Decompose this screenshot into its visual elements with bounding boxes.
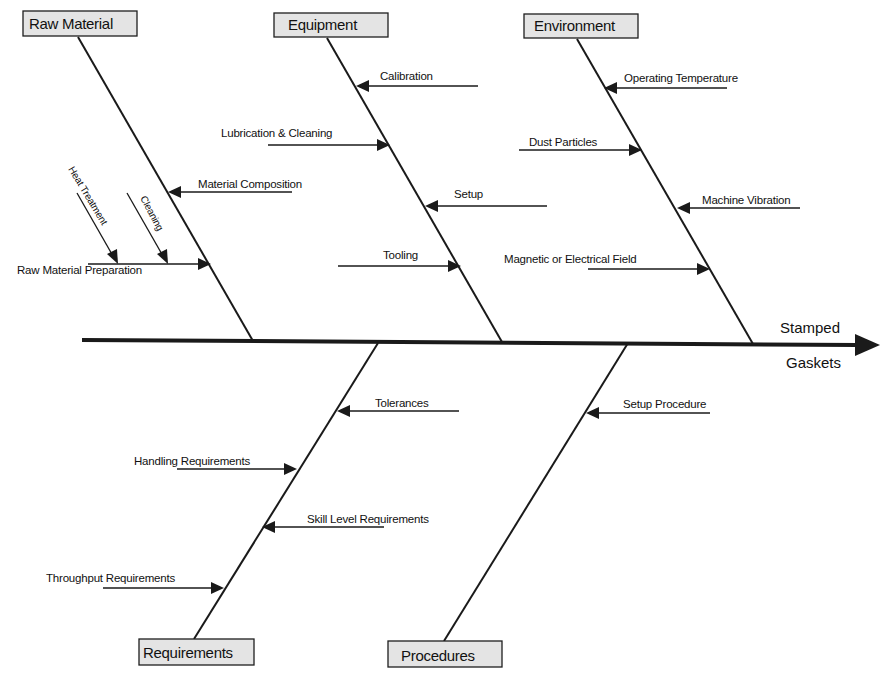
arrowhead-right-icon — [377, 139, 390, 151]
sub-cause-label: Cleaning — [138, 194, 165, 233]
arrowhead-down-icon — [107, 249, 118, 264]
arrowhead-left-icon — [262, 521, 275, 533]
cause-lubrication-cleaning: Lubrication & Cleaning — [221, 127, 390, 151]
arrowhead-right-icon — [448, 260, 461, 272]
cause-label: Tooling — [383, 249, 418, 261]
cause-raw-material-preparation: Raw Material Preparation Heat Treatment … — [17, 164, 211, 276]
cause-magnetic-electrical-field: Magnetic or Electrical Field — [504, 253, 710, 275]
cause-label: Tolerances — [375, 397, 429, 409]
arrowhead-right-icon — [198, 258, 211, 270]
bone-environment — [577, 39, 753, 344]
cause-label: Skill Level Requirements — [307, 513, 429, 525]
category-label-equipment: Equipment — [288, 16, 358, 33]
effect-label-line2: Gaskets — [786, 354, 841, 371]
cause-label: Setup — [454, 188, 483, 200]
category-procedures: Procedures Setup Procedure — [388, 343, 710, 667]
sub-cause-heat-treatment: Heat Treatment — [66, 164, 118, 264]
category-label-raw-material: Raw Material — [29, 15, 113, 32]
category-label-requirements: Requirements — [143, 644, 233, 661]
fishbone-diagram: Stamped Gaskets Raw Material Material Co… — [0, 0, 894, 687]
cause-tolerances: Tolerances — [337, 397, 459, 417]
cause-handling-requirements: Handling Requirements — [134, 455, 297, 475]
cause-label: Calibration — [380, 70, 433, 82]
bone-requirements — [194, 343, 378, 639]
cause-label: Dust Particles — [529, 136, 598, 148]
bone-procedures — [444, 343, 628, 641]
spine-line — [82, 340, 858, 345]
spine-arrowhead-icon — [855, 334, 880, 356]
cause-label: Operating Temperature — [624, 72, 738, 84]
cause-skill-level-requirements: Skill Level Requirements — [262, 513, 429, 533]
arrowhead-down-icon — [157, 249, 168, 264]
cause-material-composition: Material Composition — [168, 178, 302, 198]
category-environment: Environment Operating Temperature Dust P… — [504, 14, 800, 344]
category-requirements: Requirements Tolerances Handling Require… — [46, 343, 459, 665]
cause-machine-vibration: Machine Vibration — [677, 194, 800, 214]
category-label-environment: Environment — [534, 17, 616, 34]
cause-calibration: Calibration — [356, 70, 478, 92]
cause-throughput-requirements: Throughput Requirements — [46, 572, 224, 594]
cause-label: Lubrication & Cleaning — [221, 127, 332, 139]
arrowhead-left-icon — [604, 82, 617, 94]
arrowhead-left-icon — [677, 202, 690, 214]
arrowhead-right-icon — [629, 144, 642, 156]
cause-setup-procedure: Setup Procedure — [586, 398, 710, 419]
cause-label: Raw Material Preparation — [17, 264, 142, 276]
cause-label: Magnetic or Electrical Field — [504, 253, 636, 265]
category-label-procedures: Procedures — [401, 647, 475, 664]
cause-label: Material Composition — [198, 178, 302, 190]
cause-dust-particles: Dust Particles — [519, 136, 642, 156]
sub-cause-cleaning: Cleaning — [127, 193, 168, 264]
effect-label-line1: Stamped — [780, 319, 840, 336]
cause-operating-temperature: Operating Temperature — [604, 72, 738, 94]
cause-tooling: Tooling — [338, 249, 461, 272]
cause-label: Setup Procedure — [623, 398, 706, 410]
spine — [82, 334, 880, 356]
cause-label: Handling Requirements — [134, 455, 250, 467]
cause-label: Machine Vibration — [702, 194, 790, 206]
cause-label: Throughput Requirements — [46, 572, 175, 584]
arrowhead-right-icon — [284, 463, 297, 475]
sub-cause-label: Heat Treatment — [66, 164, 110, 227]
category-raw-material: Raw Material Material Composition Raw Ma… — [17, 11, 302, 341]
cause-setup: Setup — [425, 188, 547, 212]
